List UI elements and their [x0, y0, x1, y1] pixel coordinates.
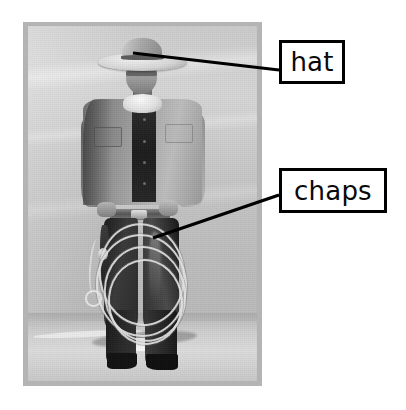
- cowboy-hat-band: [121, 55, 165, 60]
- shirt-placket: [132, 102, 156, 201]
- lasso-honda-loop: [85, 290, 102, 306]
- neckerchief: [123, 94, 162, 112]
- cowboy-photograph: [28, 26, 257, 381]
- jacket-shadow: [83, 99, 113, 206]
- callout-label-hat: hat: [290, 49, 333, 75]
- left-hand: [97, 202, 116, 218]
- callout-box-chaps[interactable]: chaps: [279, 168, 387, 213]
- right-hand: [159, 200, 178, 216]
- jacket-pocket-right: [165, 124, 192, 144]
- right-boot: [146, 354, 178, 370]
- jacket-pocket-left: [94, 127, 121, 147]
- shirt-button: [143, 161, 146, 164]
- photo-frame: [23, 22, 262, 386]
- annotated-image-canvas: hat chaps: [0, 0, 406, 410]
- shirt-button: [143, 140, 146, 143]
- left-boot: [107, 353, 137, 369]
- callout-box-hat[interactable]: hat: [279, 40, 345, 84]
- callout-label-chaps: chaps: [294, 178, 372, 204]
- cowboy-figure: [28, 26, 257, 381]
